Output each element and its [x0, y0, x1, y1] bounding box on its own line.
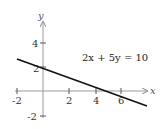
equation-annotation: 2x + 5y = 10	[82, 52, 148, 63]
x-tick-label: 2	[66, 95, 72, 106]
y-tick-label: 4	[32, 38, 38, 49]
x-tick-label: -2	[12, 95, 22, 106]
x-axis-label: x	[150, 85, 156, 96]
x-tick-label: 4	[93, 95, 99, 106]
y-axis-label: y	[37, 10, 44, 21]
chart: -2 2 4 6 4 2 -2 x y 2x + 5y = 10	[0, 0, 165, 129]
y-tick-label: -2	[27, 111, 37, 122]
series-line	[17, 59, 147, 106]
